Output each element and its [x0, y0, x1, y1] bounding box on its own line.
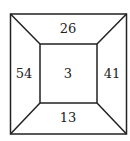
diagonal-bottom-right [97, 103, 127, 134]
top-region-value: 26 [53, 22, 83, 36]
diagonal-bottom-left [11, 103, 41, 134]
diagonal-top-left [11, 14, 41, 44]
center-region-value: 3 [53, 67, 83, 81]
diagonal-top-right [97, 14, 127, 44]
bottom-region-value: 13 [53, 111, 83, 125]
right-region-value: 41 [97, 67, 127, 81]
left-region-value: 54 [9, 67, 39, 81]
